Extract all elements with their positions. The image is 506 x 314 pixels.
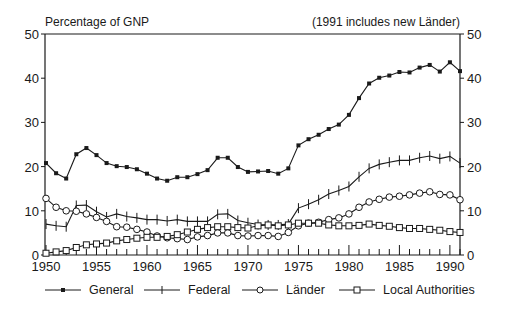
y-tick-label-right: 0 (467, 248, 474, 263)
y-tick-label-right: 20 (467, 160, 481, 175)
y-tick-label-right: 40 (467, 71, 481, 86)
x-tick-label: 1975 (284, 259, 313, 274)
open-circle-marker-icon (242, 285, 278, 295)
legend-label: Länder (286, 283, 325, 297)
y-tick-label-left: 30 (25, 115, 39, 130)
y-tick-label-right: 30 (467, 115, 481, 130)
y-tick-label-left: 50 (25, 27, 39, 42)
legend-item-general: General (45, 283, 133, 297)
y-tick-label-left: 10 (25, 204, 39, 219)
filled-square-marker-icon (45, 285, 81, 295)
legend-item-local-authorities: Local Authorities (339, 283, 475, 297)
x-tick-label: 1955 (82, 259, 111, 274)
legend-item-laender: Länder (242, 283, 325, 297)
series-laender (43, 188, 464, 242)
plus-marker-icon (144, 285, 180, 295)
y-tick-label-right: 10 (467, 204, 481, 219)
y-tick-label-right: 50 (467, 27, 481, 42)
series-local-authorities (43, 220, 463, 256)
x-tick-label: 1965 (183, 259, 212, 274)
y-tick-label-left: 20 (25, 160, 39, 175)
line-chart: 0010102020303040405050195019551960196519… (0, 0, 506, 280)
x-tick-label: 1970 (233, 259, 262, 274)
x-tick-label: 1950 (32, 259, 61, 274)
legend-label: General (89, 283, 133, 297)
x-tick-label: 1980 (334, 259, 363, 274)
legend-label: Local Authorities (383, 283, 475, 297)
chart-legend: General Federal Länder Local Authorities (0, 283, 506, 303)
x-tick-label: 1960 (133, 259, 162, 274)
y-tick-label-left: 40 (25, 71, 39, 86)
x-tick-label: 1990 (435, 259, 464, 274)
open-square-marker-icon (339, 285, 375, 295)
x-tick-label: 1985 (385, 259, 414, 274)
legend-label: Federal (188, 283, 230, 297)
legend-item-federal: Federal (144, 283, 230, 297)
